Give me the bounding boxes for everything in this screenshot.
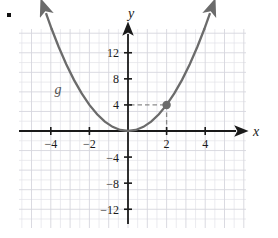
x-tick-label: 2: [164, 137, 170, 151]
function-label-g: g: [55, 82, 62, 97]
x-tick-label: −4: [44, 137, 57, 151]
y-tick-label: 8: [113, 72, 119, 86]
y-tick-label: 4: [113, 98, 119, 112]
plot-background: [19, 29, 246, 228]
x-axis-label: x: [252, 124, 260, 139]
marked-point-dot: [162, 101, 170, 109]
y-axis-label: y: [126, 6, 135, 21]
y-tick-label: 12: [107, 46, 119, 60]
x-tick-label: 4: [202, 137, 208, 151]
curve-arrow-right: [204, 13, 210, 29]
curve-arrow-left: [46, 13, 52, 29]
x-tick-label: −2: [83, 137, 96, 151]
graph-figure: −4−2241284−4−8−12 y x g: [0, 0, 278, 238]
y-tick-label: −4: [106, 151, 119, 165]
y-tick-label: −12: [100, 203, 119, 217]
y-tick-label: −8: [106, 177, 119, 191]
